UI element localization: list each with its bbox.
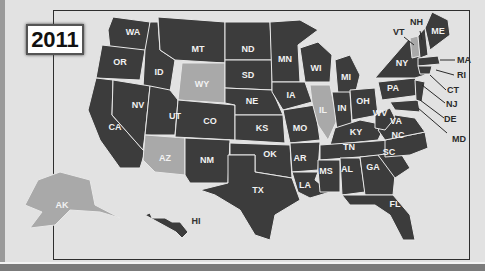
label-az: AZ	[159, 153, 171, 163]
label-tx: TX	[252, 185, 264, 195]
label-ca: CA	[109, 122, 122, 132]
label-ks: KS	[256, 123, 269, 133]
state-hi[interactable]	[145, 213, 188, 238]
state-pa[interactable]	[378, 78, 420, 100]
label-or: OR	[113, 57, 127, 67]
label-wa: WA	[126, 27, 141, 37]
label-fl: FL	[390, 199, 401, 209]
label-ms: MS	[319, 166, 333, 176]
label-oh: OH	[356, 96, 370, 106]
label-il: IL	[319, 105, 328, 115]
label-ar: AR	[294, 153, 307, 163]
label-ne: NE	[246, 96, 259, 106]
label-wy: WY	[195, 79, 210, 89]
bottom-edge	[0, 262, 485, 271]
label-me: ME	[431, 26, 445, 36]
label-va: VA	[390, 116, 402, 126]
state-md[interactable]	[390, 100, 420, 112]
label-mn: MN	[278, 54, 292, 64]
state-ma[interactable]	[418, 56, 440, 66]
callout-md: MD	[452, 134, 466, 144]
label-mo: MO	[293, 123, 308, 133]
label-hi: HI	[192, 216, 201, 226]
label-mi: MI	[341, 72, 351, 82]
callout-ri: RI	[457, 70, 466, 80]
callout-ct: CT	[447, 85, 459, 95]
label-id: ID	[155, 67, 165, 77]
state-ak[interactable]	[25, 172, 120, 228]
label-pa: PA	[387, 83, 399, 93]
label-wi: WI	[311, 63, 322, 73]
state-ct[interactable]	[418, 66, 432, 74]
label-sc: SC	[383, 147, 396, 157]
callout-nh: NH	[410, 17, 423, 27]
label-ok: OK	[263, 149, 277, 159]
label-ak: AK	[56, 200, 69, 210]
label-co: CO	[203, 116, 217, 126]
label-wv: WV	[373, 108, 388, 118]
label-tn: TN	[343, 142, 355, 152]
label-nm: NM	[200, 155, 214, 165]
label-ky: KY	[350, 127, 363, 137]
label-ga: GA	[366, 162, 380, 172]
callout-vt: VT	[393, 27, 405, 37]
label-al: AL	[341, 164, 353, 174]
callout-nj: NJ	[446, 99, 458, 109]
label-la: LA	[299, 180, 311, 190]
label-ut: UT	[169, 111, 181, 121]
label-nc: NC	[392, 130, 405, 140]
state-nd[interactable]	[225, 22, 272, 60]
state-wi[interactable]	[300, 42, 332, 82]
state-ms[interactable]	[318, 160, 340, 192]
label-in: IN	[338, 103, 347, 113]
label-sd: SD	[242, 70, 255, 80]
callout-ma: MA	[457, 55, 471, 65]
year-label: 2011	[26, 24, 84, 55]
label-nv: NV	[132, 100, 145, 110]
label-ia: IA	[287, 90, 297, 100]
label-ny: NY	[396, 58, 409, 68]
callout-de: DE	[444, 114, 457, 124]
state-nj[interactable]	[415, 80, 425, 102]
label-mt: MT	[192, 44, 205, 54]
state-fl[interactable]	[342, 195, 415, 240]
label-nd: ND	[242, 44, 255, 54]
